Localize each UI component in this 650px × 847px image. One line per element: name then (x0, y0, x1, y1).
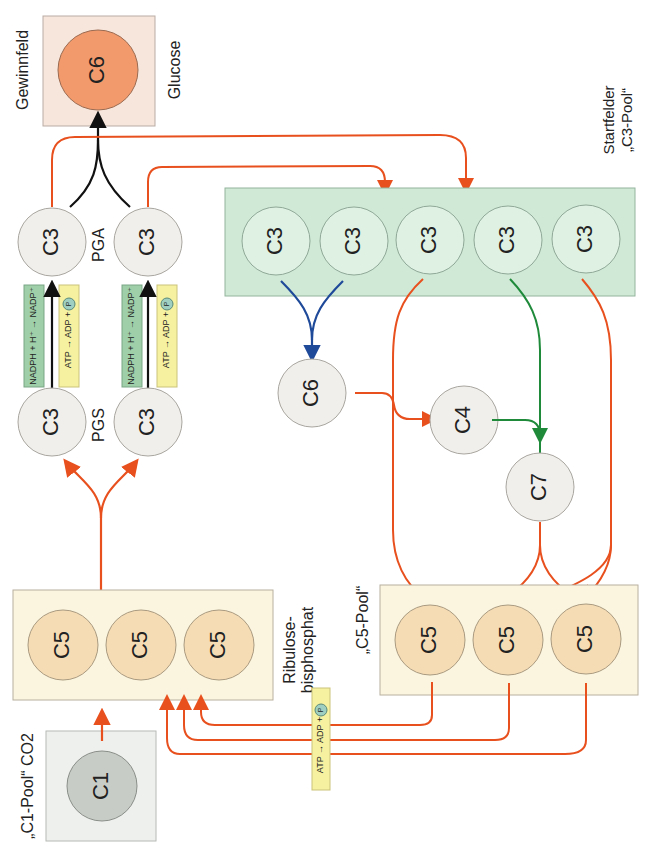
svg-text:C3: C3 (572, 225, 597, 253)
glucose-field: C6 Gewinnfeld Glucose (14, 16, 183, 126)
calvin-cycle-diagram: C6 Gewinnfeld Glucose C3 C3 PGA NADPH + … (0, 0, 650, 847)
svg-text:P: P (163, 301, 170, 306)
svg-text:„C5-Pool“: „C5-Pool“ (354, 586, 371, 654)
svg-text:bisphosphat: bisphosphat (299, 606, 316, 693)
svg-text:NADPH + H⁺ → NADP⁺: NADPH + H⁺ → NADP⁺ (28, 287, 38, 384)
glucose-c6-label: C6 (84, 56, 109, 84)
reaction-boxes: NADPH + H⁺ → NADP⁺ ATP → ADP + P NADPH +… (24, 285, 177, 387)
svg-text:C5: C5 (49, 631, 74, 659)
pgs-row: C3 C3 PGS (18, 388, 182, 456)
gewinnfeld-label: Gewinnfeld (14, 30, 31, 110)
c4: C4 (450, 406, 475, 434)
svg-text:ATP → ADP +: ATP → ADP + (315, 717, 325, 773)
svg-text:C5: C5 (416, 626, 441, 654)
svg-text:C5: C5 (494, 626, 519, 654)
pgs-c3-1: C3 (38, 408, 63, 436)
svg-text:Startfelder: Startfelder (600, 85, 617, 154)
svg-text:P: P (317, 707, 324, 712)
svg-text:C5: C5 (572, 625, 597, 653)
svg-text:NADPH + H⁺ → NADP⁺: NADPH + H⁺ → NADP⁺ (126, 287, 136, 384)
pgs-label: PGS (90, 408, 107, 442)
svg-text:C1: C1 (88, 772, 113, 800)
svg-text:C3: C3 (494, 226, 519, 254)
c1-pool-box: C1 „C1-Pool“ CO2 (19, 731, 156, 841)
svg-text:C3: C3 (340, 227, 365, 255)
c6-mid: C6 (298, 379, 323, 407)
pga-c3-1: C3 (38, 228, 63, 256)
c3-pool-box: C3 C3 C3 C3 C3 Startfelder „C3-Pool“ (225, 85, 635, 296)
svg-text:„C3-Pool“: „C3-Pool“ (618, 88, 635, 152)
svg-text:ATP → ADP +: ATP → ADP + (161, 312, 171, 368)
c5-pool-box: C5 C5 C5 „C5-Pool“ (354, 585, 638, 695)
c7: C7 (526, 473, 551, 501)
svg-text:ATP → ADP +: ATP → ADP + (63, 312, 73, 368)
svg-text:„C1-Pool“ CO2: „C1-Pool“ CO2 (19, 733, 36, 839)
glucose-label: Glucose (166, 41, 183, 100)
pga-c3-2: C3 (134, 228, 159, 256)
atp-return-box: ATP → ADP + P (312, 688, 330, 790)
pga-row: C3 C3 PGA (18, 208, 182, 276)
svg-text:C5: C5 (205, 631, 230, 659)
svg-text:C5: C5 (127, 631, 152, 659)
svg-text:Ribulose-: Ribulose- (281, 616, 298, 684)
svg-text:C3: C3 (416, 226, 441, 254)
pga-label: PGA (90, 228, 107, 262)
svg-text:C3: C3 (262, 227, 287, 255)
ribulose-bisphosphat-box: C5 C5 C5 Ribulose- bisphosphat (13, 590, 316, 700)
pgs-c3-2: C3 (134, 408, 159, 436)
svg-text:P: P (65, 301, 72, 306)
